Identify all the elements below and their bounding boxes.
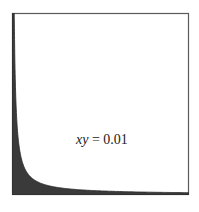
- equation-value: = 0.01: [88, 132, 127, 147]
- hyperbola-plot: [0, 0, 199, 212]
- plot-frame: [13, 14, 189, 195]
- equation-variable: xy: [76, 132, 88, 147]
- equation-label: xy = 0.01: [76, 132, 128, 148]
